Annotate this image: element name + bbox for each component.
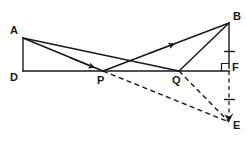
right-angle-mark-icon: [222, 64, 230, 72]
vertex-label-b: B: [233, 11, 241, 22]
vertex-label-d: D: [10, 72, 18, 83]
arrow-pb-icon: [148, 45, 172, 54]
vertex-label-a: A: [10, 25, 18, 36]
arrow-ap-icon: [70, 58, 92, 67]
vertex-label-e: E: [233, 120, 240, 131]
segment-pe: [103, 71, 229, 122]
segment-aq: [23, 38, 179, 71]
geometry-canvas: [0, 0, 247, 143]
segment-qe: [179, 71, 229, 122]
vertex-label-p: P: [97, 75, 104, 86]
vertex-label-q: Q: [172, 75, 181, 86]
geometry-figure: A D B F E P Q: [0, 0, 247, 143]
vertex-label-f: F: [232, 62, 239, 73]
